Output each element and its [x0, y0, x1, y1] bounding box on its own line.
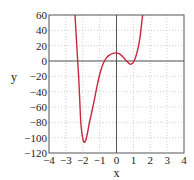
- y-tick-labels: −120−100−80−60−40−200204060: [24, 9, 47, 159]
- y-tick-label: −80: [30, 116, 48, 128]
- y-tick-label: 20: [36, 40, 48, 52]
- y-tick-label: −60: [30, 101, 48, 113]
- x-tick-label: 1: [131, 154, 137, 166]
- data-curve: [75, 15, 143, 142]
- x-tick-label: −2: [77, 154, 89, 166]
- y-tick-label: 60: [36, 9, 48, 21]
- y-tick-label: −120: [24, 147, 47, 159]
- y-axis-label: y: [11, 70, 17, 84]
- x-tick-label: −1: [94, 154, 106, 166]
- y-tick-label: −100: [24, 132, 47, 144]
- x-axis-label: x: [114, 166, 120, 180]
- zero-axis-lines: [49, 15, 184, 153]
- x-tick-label: 2: [148, 154, 154, 166]
- x-tick-label: 3: [164, 154, 170, 166]
- y-tick-label: −40: [30, 86, 48, 98]
- x-tick-label: 4: [181, 154, 187, 166]
- y-tick-label: 40: [36, 24, 48, 36]
- y-tick-label: 0: [42, 55, 48, 67]
- y-tick-label: −20: [30, 70, 48, 82]
- x-tick-label: −3: [60, 154, 72, 166]
- x-tick-label: 0: [114, 154, 120, 166]
- x-tick-labels: −4−3−2−101234: [43, 154, 187, 166]
- line-chart: −4−3−2−101234 −120−100−80−60−40−20020406…: [0, 0, 194, 180]
